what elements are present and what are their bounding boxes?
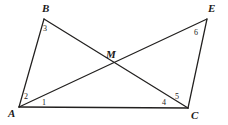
segment-AC [19,107,188,108]
vertex-label-C: C [191,110,199,121]
angle-label-2: 2 [24,93,28,101]
geometry-figure: BEMAC123456 [0,0,228,125]
angle-label-5: 5 [175,93,179,101]
angle-label-3: 3 [43,25,47,33]
angle-label-4: 4 [162,99,166,107]
segment-AB [19,19,44,107]
angle-label-6: 6 [194,29,198,37]
vertex-label-M: M [106,49,116,60]
vertex-label-A: A [8,108,16,119]
segment-BC [44,19,188,108]
angle-label-1: 1 [42,99,46,107]
figure-drawing-surface [0,0,228,125]
vertex-label-B: B [42,3,50,14]
vertex-label-E: E [208,3,216,14]
